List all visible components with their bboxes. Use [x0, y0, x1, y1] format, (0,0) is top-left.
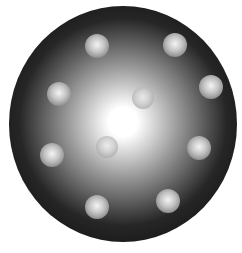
electron-particle-3	[199, 75, 223, 99]
electron-particle-4	[47, 82, 71, 106]
plum-pudding-diagram	[0, 0, 242, 253]
electron-particle-1	[85, 34, 109, 58]
electron-particle-8	[187, 136, 211, 160]
electron-particle-5	[132, 87, 154, 109]
electron-particle-10	[156, 189, 180, 213]
electron-particle-6	[96, 136, 118, 158]
positive-charge-sphere	[9, 6, 237, 242]
electron-particle-7	[40, 143, 64, 167]
atom-model-graphic	[0, 0, 242, 253]
electron-particle-9	[85, 195, 109, 219]
electron-particle-2	[163, 33, 187, 57]
